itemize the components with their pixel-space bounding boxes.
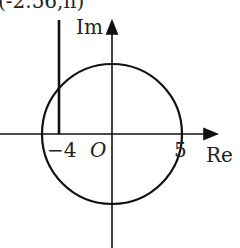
re-axis-label: Re <box>206 143 233 167</box>
complex-plane-diagram: (-2.56,π) Im Re O −4 5 <box>0 0 240 248</box>
tick-label-5: 5 <box>174 138 187 162</box>
tick-label-minus-4: −4 <box>47 138 76 162</box>
diagram-canvas: (-2.56,π) Im Re O −4 5 <box>0 0 240 248</box>
top-label: (-2.56,π) <box>0 0 84 13</box>
im-axis-label: Im <box>76 15 103 39</box>
origin-label: O <box>90 138 106 162</box>
